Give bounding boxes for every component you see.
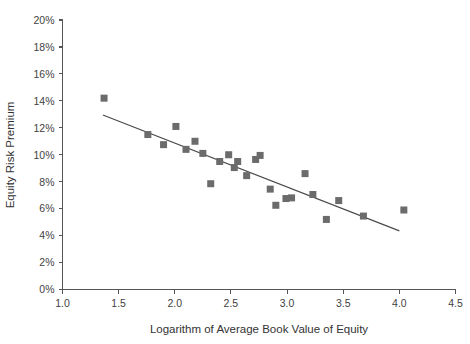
y-tick-label: 16% [33, 68, 54, 80]
y-tick-label: 12% [33, 122, 54, 134]
data-point-marker [207, 180, 214, 187]
x-axis-ticks: 1.01.52.02.53.03.54.04.5 [55, 290, 463, 309]
y-axis-title: Equity Risk Premium [4, 102, 16, 209]
y-tick-label: 20% [33, 14, 54, 26]
y-tick-label: 4% [39, 229, 54, 241]
y-tick-label: 2% [39, 256, 54, 268]
data-point-marker [144, 131, 151, 138]
x-tick-label: 1.5 [111, 297, 126, 309]
y-tick-label: 18% [33, 41, 54, 53]
x-tick-label: 2.5 [224, 297, 239, 309]
data-point-marker [234, 158, 241, 165]
y-tick-label: 6% [39, 202, 54, 214]
data-point-marker [191, 138, 198, 145]
data-points [101, 95, 408, 223]
y-axis-ticks: 0%2%4%6%8%10%12%14%16%18%20% [33, 14, 62, 296]
x-tick-label: 4.0 [392, 297, 407, 309]
data-point-marker [272, 202, 279, 209]
plot-area: 0%2%4%6%8%10%12%14%16%18%20% 1.01.52.02.… [0, 0, 470, 344]
data-point-marker [216, 158, 223, 165]
scatter-chart: 0%2%4%6%8%10%12%14%16%18%20% 1.01.52.02.… [0, 0, 470, 344]
data-point-marker [225, 151, 232, 158]
x-tick-label: 3.0 [280, 297, 295, 309]
y-tick-label: 14% [33, 95, 54, 107]
data-point-marker [257, 152, 264, 159]
data-point-marker [199, 150, 206, 157]
data-point-marker [335, 197, 342, 204]
data-point-marker [243, 172, 250, 179]
x-tick-label: 4.5 [448, 297, 463, 309]
x-axis-title: Logarithm of Average Book Value of Equit… [150, 323, 368, 335]
x-tick-label: 1.0 [55, 297, 70, 309]
data-point-marker [323, 216, 330, 223]
y-tick-label: 0% [39, 283, 54, 295]
x-tick-label: 3.5 [336, 297, 351, 309]
data-point-marker [101, 95, 108, 102]
x-tick-label: 2.0 [167, 297, 182, 309]
y-tick-label: 10% [33, 149, 54, 161]
data-point-marker [400, 206, 407, 213]
data-point-marker [172, 123, 179, 130]
data-point-marker [231, 164, 238, 171]
data-point-marker [309, 191, 316, 198]
data-point-marker [360, 213, 367, 220]
data-point-marker [267, 186, 274, 193]
data-point-marker [183, 146, 190, 153]
top-cropped-caption [90, 0, 390, 7]
data-point-marker [160, 141, 167, 148]
data-point-marker [302, 170, 309, 177]
data-point-marker [288, 194, 295, 201]
y-tick-label: 8% [39, 176, 54, 188]
